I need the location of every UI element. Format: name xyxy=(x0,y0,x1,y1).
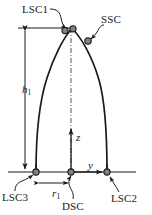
label-ssc: SSC xyxy=(101,14,121,25)
marker-lsc1-apex-left xyxy=(62,27,68,33)
label-lsc2: LSC2 xyxy=(111,193,137,204)
figure-canvas: LSC1 SSC h1 z y LSC3 r1 DSC LSC2 xyxy=(0,0,152,215)
label-r1: r1 xyxy=(52,188,60,201)
lsc1-leader xyxy=(50,9,66,29)
marker-ssc xyxy=(85,38,91,44)
label-axis-y: y xyxy=(88,160,93,171)
label-lsc3: LSC3 xyxy=(2,192,28,203)
dsc-leader xyxy=(69,176,73,199)
lsc2-leader xyxy=(110,177,119,192)
ssc-leader xyxy=(91,25,104,39)
marker-dsc xyxy=(68,169,74,175)
marker-lsc1-apex xyxy=(70,26,76,32)
label-dsc: DSC xyxy=(62,201,84,212)
label-axis-z: z xyxy=(76,132,80,143)
marker-lsc3 xyxy=(33,169,39,175)
meniscus-profile-diagram xyxy=(0,0,152,215)
label-h1: h1 xyxy=(22,84,31,97)
label-h1-subscript: 1 xyxy=(28,88,32,97)
label-lsc1: LSC1 xyxy=(22,4,48,15)
marker-lsc2 xyxy=(104,169,110,175)
label-r1-subscript: 1 xyxy=(56,192,60,201)
lsc3-leader xyxy=(15,175,33,191)
